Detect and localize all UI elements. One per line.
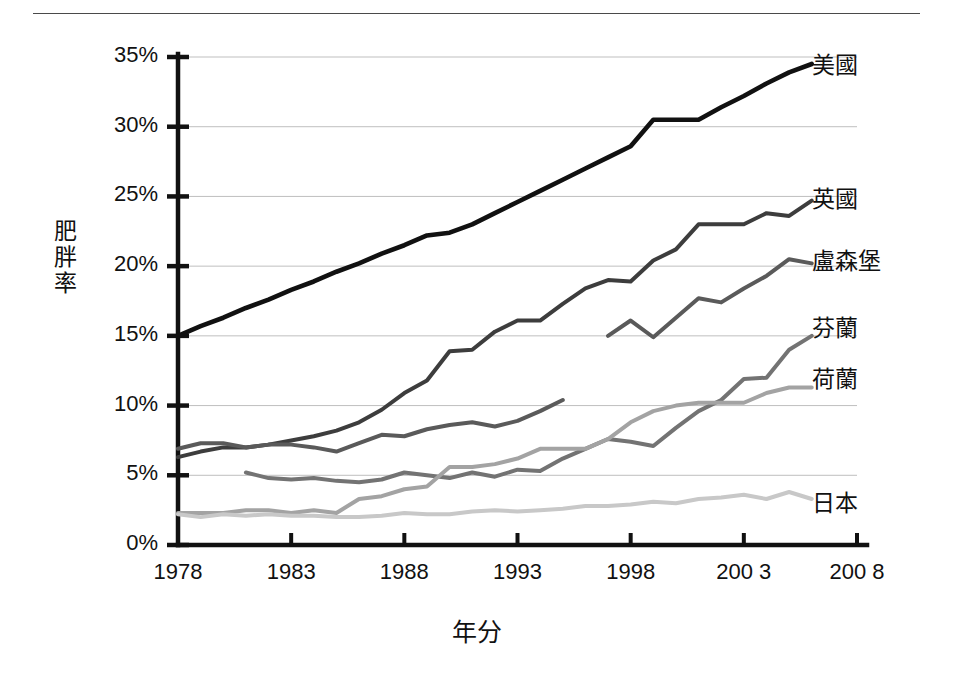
series-line-英國 xyxy=(178,201,812,458)
y-axis-tick-label: 25% xyxy=(114,181,158,207)
series-label-盧森堡: 盧森堡 xyxy=(812,242,881,276)
y-axis-tick-label: 0% xyxy=(126,530,158,556)
y-axis-tick-label: 5% xyxy=(126,460,158,486)
x-axis-tick-label: 1998 xyxy=(571,559,691,585)
x-axis-tick-label: 200 8 xyxy=(797,559,917,585)
chart-figure: 肥 胖 率 年分 0%5%10%15%20%25%30%35%197819831… xyxy=(0,0,953,689)
series-label-芬蘭: 芬蘭 xyxy=(812,309,858,343)
y-axis-tick-label: 20% xyxy=(114,251,158,277)
gridlines xyxy=(178,57,857,475)
y-axis-tick-label: 10% xyxy=(114,391,158,417)
x-axis-tick-label: 1983 xyxy=(231,559,351,585)
x-axis-tick-label: 200 3 xyxy=(684,559,804,585)
series-lines xyxy=(178,64,812,517)
series-line-盧森堡 xyxy=(178,400,563,452)
x-axis-tick-label: 1993 xyxy=(458,559,578,585)
series-line-日本 xyxy=(178,492,812,517)
x-axis-tick-label: 1988 xyxy=(344,559,464,585)
series-label-美國: 美國 xyxy=(812,46,858,80)
y-axis-tick-label: 30% xyxy=(114,112,158,138)
series-label-英國: 英國 xyxy=(812,180,858,214)
series-line-芬蘭 xyxy=(246,336,812,482)
series-line-荷蘭 xyxy=(178,387,812,512)
y-axis-tick-label: 35% xyxy=(114,42,158,68)
series-line-盧森堡 xyxy=(608,259,812,337)
series-line-美國 xyxy=(178,64,812,336)
x-axis-tick-label: 1978 xyxy=(118,559,238,585)
series-label-日本: 日本 xyxy=(812,484,858,518)
series-label-荷蘭: 荷蘭 xyxy=(812,360,858,394)
y-axis-tick-label: 15% xyxy=(114,321,158,347)
